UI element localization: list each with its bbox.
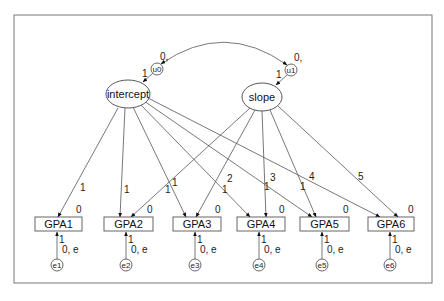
u0-label: u0: [153, 65, 162, 74]
intercept-label: intercept: [107, 88, 149, 100]
e6-variance-label: 0, e: [395, 244, 412, 255]
slope-loading-arrow: [262, 111, 266, 217]
intercept-loading-label: 1: [300, 181, 306, 192]
intercept-loading-arrow: [140, 104, 250, 217]
gpa6-label: GPA6: [377, 218, 406, 230]
gpa3-intercept-label: 0: [215, 204, 221, 215]
e5-label: e5: [318, 261, 327, 270]
gpa6-intercept-label: 0: [408, 204, 414, 215]
gpa1-intercept-label: 0: [76, 204, 82, 215]
intercept-loading-label: 1: [222, 184, 228, 195]
e1-label: e1: [53, 261, 62, 270]
u0-path-label: 1: [142, 68, 148, 79]
u1-label: u1: [287, 66, 296, 75]
slope-loading-arrow: [196, 110, 255, 217]
gpa5-intercept-label: 0: [343, 204, 349, 215]
slope-loading-label: 2: [227, 173, 233, 184]
e3-label: e3: [191, 261, 200, 270]
u0-mean-label: 0,: [160, 51, 168, 62]
path-diagram: interceptslopeu0u1GPA1e1GPA2e2GPA3e3GPA4…: [0, 0, 444, 301]
slope-loading-label: 3: [270, 172, 276, 183]
intercept-loading-arrow: [58, 108, 118, 217]
slope-loading-arrow: [278, 106, 398, 217]
intercept-loading-label: 1: [165, 184, 171, 195]
gpa2-label: GPA2: [114, 218, 143, 230]
gpa5-label: GPA5: [310, 218, 339, 230]
e5-variance-label: 0, e: [327, 244, 344, 255]
intercept-loading-label: 1: [80, 182, 86, 193]
slope-loading-arrow: [270, 110, 316, 217]
gpa2-intercept-label: 0: [147, 204, 153, 215]
e1-variance-label: 0, e: [62, 244, 79, 255]
covariance-arrow: [161, 42, 287, 65]
gpa1-label: GPA1: [44, 218, 73, 230]
u1-path-label: 1: [276, 69, 282, 80]
e2-label: e2: [122, 261, 131, 270]
e2-variance-label: 0, e: [131, 244, 148, 255]
gpa3-label: GPA3: [183, 218, 212, 230]
slope-label: slope: [249, 91, 275, 103]
intercept-loading-arrow: [120, 108, 125, 217]
slope-loading-label: 4: [309, 171, 315, 182]
e3-variance-label: 0, e: [200, 244, 217, 255]
gpa4-intercept-label: 0: [279, 204, 285, 215]
u1-mean-label: 0,: [294, 52, 302, 63]
slope-loading-label: 1: [172, 177, 178, 188]
slope-loading-arrow: [131, 108, 250, 217]
e4-label: e4: [255, 261, 264, 270]
gpa4-label: GPA4: [247, 218, 276, 230]
e4-variance-label: 0, e: [264, 244, 281, 255]
e6-label: e6: [386, 261, 395, 270]
intercept-loading-label: 1: [124, 184, 130, 195]
diagram-frame: [14, 15, 432, 283]
slope-loading-label: 5: [358, 171, 364, 182]
